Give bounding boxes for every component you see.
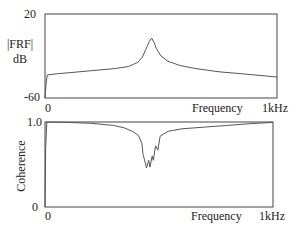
chart-figure: 20 -60 |FRF| dB 0 Frequency 1kHz 1.0 0 C… [0, 0, 298, 238]
coherence-x-label: Frequency [191, 209, 242, 223]
coherence-series-line [45, 122, 273, 207]
frf-y-tick-min: -60 [24, 90, 40, 104]
coherence-x-tick-min: 0 [45, 209, 51, 223]
coherence-y-label: Coherence [14, 140, 28, 191]
frf-y-label-line2: dB [13, 52, 27, 66]
coherence-y-tick-min: 0 [32, 200, 38, 214]
frf-y-label-line1: |FRF| [7, 37, 33, 51]
frf-series-line [45, 38, 277, 98]
frf-y-tick-max: 20 [24, 7, 36, 21]
coherence-x-tick-max: 1kHz [259, 209, 285, 223]
frf-x-label: Frequency [192, 101, 243, 115]
frf-plot: 20 -60 |FRF| dB 0 Frequency 1kHz [7, 7, 288, 115]
frf-x-tick-max: 1kHz [262, 101, 288, 115]
frf-x-tick-min: 0 [45, 101, 51, 115]
coherence-plot: 1.0 0 Coherence 0 Frequency 1kHz [14, 115, 285, 223]
coherence-y-tick-max: 1.0 [27, 115, 42, 129]
coherence-plot-frame [45, 122, 273, 207]
